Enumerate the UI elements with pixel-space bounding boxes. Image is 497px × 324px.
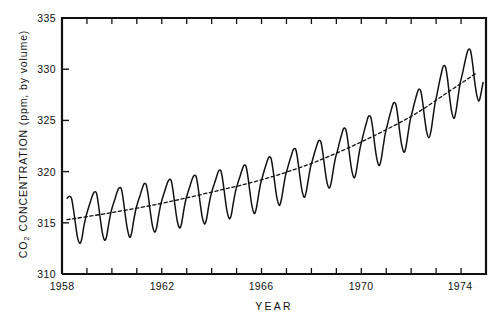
axis-frame — [62, 18, 486, 274]
trend-line — [67, 73, 476, 219]
y-tick-label-310: 310 — [26, 268, 56, 280]
x-tick-label-1958: 1958 — [42, 280, 82, 292]
y-tick-label-320: 320 — [26, 166, 56, 178]
y-axis-label-subscript: 2 — [22, 235, 31, 240]
y-axis-label: CO2 CONCENTRATION (ppm, by volume) — [17, 14, 29, 274]
y-tick-label-335: 335 — [26, 12, 56, 24]
y-axis-label-prefix: CO — [17, 241, 29, 259]
co2-keeling-curve-figure: CO2 CONCENTRATION (ppm, by volume) YEAR … — [0, 0, 497, 324]
plot-area — [0, 0, 497, 324]
y-tick-label-330: 330 — [26, 63, 56, 75]
y-tick-label-315: 315 — [26, 217, 56, 229]
y-axis-label-rest: CONCENTRATION (ppm, by volume) — [17, 30, 29, 236]
x-axis-label: YEAR — [62, 300, 486, 312]
x-tick-label-1974: 1974 — [440, 280, 480, 292]
x-tick-label-1962: 1962 — [142, 280, 182, 292]
x-tick-label-1966: 1966 — [241, 280, 281, 292]
y-tick-label-325: 325 — [26, 114, 56, 126]
x-tick-label-1970: 1970 — [341, 280, 381, 292]
co2-monthly-curve — [67, 49, 483, 243]
